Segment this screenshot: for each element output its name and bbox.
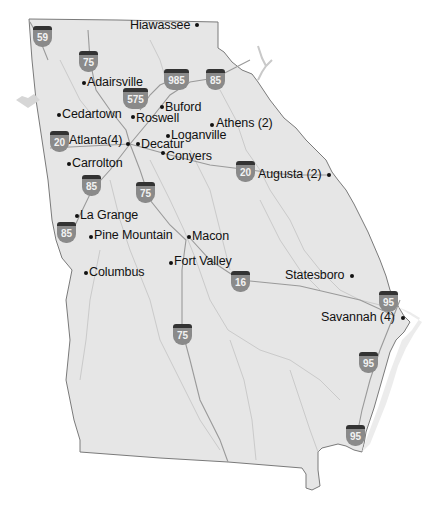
- interstate-shield-59: 59: [33, 26, 52, 47]
- interstate-number: 59: [33, 32, 52, 44]
- interstate-shield-85: 85: [206, 69, 225, 90]
- interstate-shield-95: 95: [379, 291, 398, 312]
- interstate-number: 20: [236, 167, 255, 179]
- interstate-shield-20: 20: [50, 131, 69, 152]
- city-label-pine-mountain: Pine Mountain: [94, 228, 173, 242]
- interstate-number: 85: [206, 75, 225, 87]
- interstate-number: 95: [359, 358, 378, 370]
- city-dot-columbus: [84, 271, 88, 275]
- city-dot-atlanta: [126, 142, 130, 146]
- city-dot-decatur: [136, 142, 140, 146]
- interstate-shield-985: 985: [164, 69, 189, 90]
- interstate-number: 95: [346, 431, 365, 443]
- city-label-savannah: Savannah (4): [321, 310, 395, 324]
- interstate-shield-85: 85: [82, 175, 101, 196]
- city-label-cedartown: Cedartown: [62, 107, 122, 121]
- city-label-columbus: Columbus: [89, 265, 144, 279]
- city-dot-savannah: [401, 316, 405, 320]
- interstate-shield-20: 20: [236, 161, 255, 182]
- interstate-number: 575: [123, 94, 148, 106]
- interstate-number: 75: [136, 188, 155, 200]
- city-label-roswell: Roswell: [136, 111, 179, 125]
- city-dot-adairsville: [82, 81, 86, 85]
- interstate-shield-95: 95: [346, 425, 365, 446]
- city-label-carrolton: Carrolton: [72, 156, 123, 170]
- city-dot-athens: [210, 123, 214, 127]
- interstate-number: 85: [82, 181, 101, 193]
- city-dot-carrolton: [67, 162, 71, 166]
- interstate-shield-85: 85: [57, 222, 76, 243]
- interstate-number: 75: [173, 330, 192, 342]
- city-dot-statesboro: [350, 274, 354, 278]
- interstate-number: 16: [231, 277, 250, 289]
- city-label-macon: Macon: [192, 229, 229, 243]
- interstate-number: 85: [57, 228, 76, 240]
- city-dot-conyers: [161, 151, 165, 155]
- city-label-atlanta: Atlanta(4): [69, 133, 122, 147]
- city-dot-roswell: [131, 115, 135, 119]
- interstate-shield-575: 575: [123, 88, 148, 109]
- city-label-fort-valley: Fort Valley: [174, 254, 232, 268]
- interstate-number: 985: [164, 75, 189, 87]
- city-dot-cedartown: [57, 113, 61, 117]
- interstate-number: 75: [79, 57, 98, 69]
- city-label-hiawassee: Hiawassee: [130, 18, 190, 32]
- interstate-shield-75: 75: [173, 324, 192, 345]
- city-label-statesboro: Statesboro: [285, 268, 344, 282]
- interstate-shield-95: 95: [359, 352, 378, 373]
- city-dot-macon: [187, 235, 191, 239]
- city-dot-hiawassee: [195, 23, 199, 27]
- city-dot-buford: [160, 105, 164, 109]
- city-dot-augusta: [327, 173, 331, 177]
- interstate-shield-75: 75: [79, 51, 98, 72]
- interstate-number: 20: [50, 137, 69, 149]
- city-label-la-grange: La Grange: [80, 208, 138, 222]
- interstate-shield-75: 75: [136, 182, 155, 203]
- river: [258, 46, 272, 80]
- city-label-augusta: Augusta (2): [258, 167, 322, 181]
- city-label-adairsville: Adairsville: [87, 75, 143, 89]
- city-dot-la-grange: [75, 214, 79, 218]
- interstate-shield-16: 16: [231, 271, 250, 292]
- city-label-conyers: Conyers: [166, 149, 212, 163]
- city-dot-fort-valley: [169, 261, 173, 265]
- city-dot-pine-mountain: [89, 235, 93, 239]
- interstate-number: 95: [379, 297, 398, 309]
